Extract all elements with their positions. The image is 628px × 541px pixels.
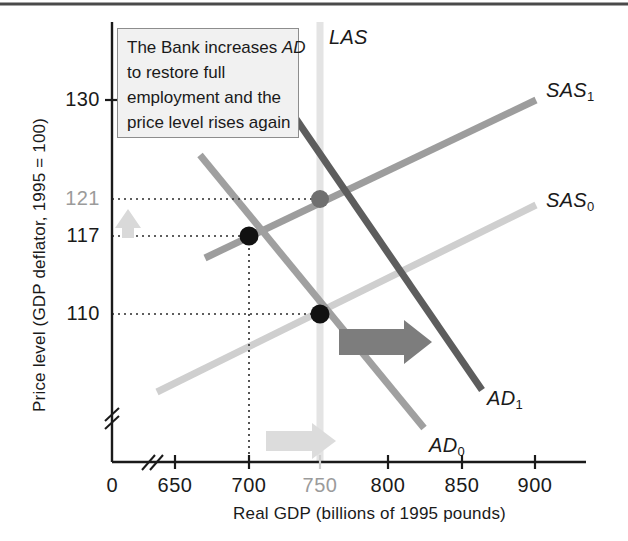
x-tick-label-850: 850 bbox=[432, 474, 492, 497]
note-line-4: price level rises again bbox=[127, 110, 290, 135]
curve-label-ad0-base: AD bbox=[429, 434, 457, 456]
gdp-shift-arrow bbox=[266, 423, 336, 459]
curve-label-ad1-sub: 1 bbox=[515, 397, 523, 412]
y-tick-label-121: 121 bbox=[44, 187, 100, 210]
x-tick-label-750: 750 bbox=[290, 474, 350, 497]
curve-label-sas1-base: SAS bbox=[546, 79, 587, 101]
chart-figure: The Bank increases AD to restore full em… bbox=[0, 0, 628, 541]
curve-label-las: LAS bbox=[329, 26, 368, 49]
curve-label-sas0-base: SAS bbox=[546, 189, 587, 211]
x-tick-label-800: 800 bbox=[358, 474, 418, 497]
ad-shift-arrow bbox=[339, 320, 432, 364]
curve-label-sas1: SAS1 bbox=[546, 79, 594, 102]
bank-increases-ad-note: The Bank increases AD to restore full em… bbox=[117, 28, 299, 138]
y-tick-label-130: 130 bbox=[44, 88, 100, 111]
note-line-3: employment and the bbox=[127, 85, 290, 110]
note-line-1-emphasis: AD bbox=[282, 38, 306, 57]
x-tick-label-700: 700 bbox=[219, 474, 279, 497]
y-tick-label-110: 110 bbox=[44, 302, 100, 325]
curve-label-sas0: SAS0 bbox=[546, 189, 594, 212]
y-axis-title: Price level (GDP deflator, 1995 = 100) bbox=[30, 118, 50, 412]
x-axis-title: Real GDP (billions of 1995 pounds) bbox=[233, 504, 506, 524]
curve-label-sas0-sub: 0 bbox=[587, 199, 595, 214]
curve-label-sas1-sub: 1 bbox=[587, 89, 595, 104]
curve-label-ad1: AD1 bbox=[487, 387, 523, 410]
equilibrium-dot-700-117 bbox=[240, 227, 259, 246]
x-tick-label-650: 650 bbox=[145, 474, 205, 497]
x-tick-label-900: 900 bbox=[505, 474, 565, 497]
note-line-1: The Bank increases AD bbox=[127, 35, 290, 60]
x-tick-label-zero: 0 bbox=[100, 474, 124, 497]
equilibrium-dot-750-121 bbox=[311, 190, 329, 208]
note-line-1-text: The Bank increases bbox=[127, 38, 282, 57]
curve-label-ad1-base: AD bbox=[487, 387, 515, 409]
equilibrium-dot-750-110 bbox=[311, 305, 330, 324]
curve-label-ad0-sub: 0 bbox=[457, 444, 465, 459]
price-rise-arrow bbox=[115, 209, 141, 238]
note-line-2: to restore full bbox=[127, 60, 290, 85]
chart-canvas bbox=[0, 0, 628, 541]
y-tick-label-117: 117 bbox=[44, 224, 100, 247]
curve-sas0 bbox=[157, 205, 536, 392]
curve-label-ad0: AD0 bbox=[429, 434, 465, 457]
